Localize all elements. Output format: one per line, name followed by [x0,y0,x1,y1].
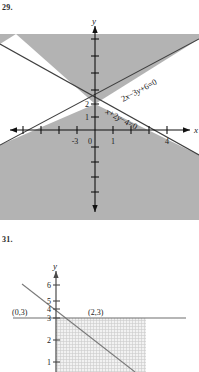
upper-shade-left-trim [0,34,16,44]
x-tick-label-1: 1 [111,137,115,146]
upper-shade-polygon [16,34,199,104]
exercise-number-31: 31. [2,235,13,244]
y-tick-label-2: 2 [85,100,89,109]
point-label-0-3: (0,3) [12,308,28,317]
graph-31-svg: y 6 5 4 3 2 1 (0,3) (2,3) [0,245,199,372]
y-tick-label-4: 4 [47,305,51,314]
figure-exercise-31: y 6 5 4 3 2 1 (0,3) (2,3) [0,245,199,372]
y-tick-label-3: 3 [47,314,51,323]
y-axis-letter: y [91,16,96,26]
textbook-page: 29. [0,0,199,372]
graph-29-svg: y x -3 0 1 4 1 2 2x−3y+6=0 x+2y−4=0 [0,12,199,220]
x-axis-arrow-left [10,127,17,132]
x-tick-label-neg3: -3 [72,137,79,146]
y-tick-label-6: 6 [47,281,51,290]
y-tick-label-1: 1 [85,113,89,122]
lower-shade-polygon [0,104,199,220]
point-label-2-3: (2,3) [88,308,104,317]
x-axis-arrow-right [183,127,190,132]
x-tick-label-0: 0 [88,137,92,146]
top-white-band [0,12,199,34]
y-axis-letter-31: y [52,261,57,271]
exercise-number-29: 29. [2,3,13,12]
y-axis-arrow-up-31 [53,271,58,278]
x-tick-label-4: 4 [165,137,169,146]
x-axis-letter: x [193,125,198,135]
figure-exercise-29: y x -3 0 1 4 1 2 2x−3y+6=0 x+2y−4=0 [0,12,199,220]
y-tick-label-1: 1 [47,358,51,367]
y-tick-label-2: 2 [47,336,51,345]
